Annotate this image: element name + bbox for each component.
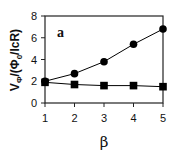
square-marker <box>71 81 79 89</box>
circle-marker <box>71 70 79 78</box>
y-tick-label: 2 <box>31 75 37 87</box>
x-tick-label: 1 <box>42 112 48 124</box>
circle-marker <box>130 40 138 48</box>
x-tick-label: 5 <box>160 112 166 124</box>
x-axis-ticks: 12345 <box>42 103 166 124</box>
series-squares <box>41 79 167 91</box>
y-axis-ticks: 02468 <box>31 10 45 109</box>
y-tick-label: 8 <box>31 10 37 22</box>
x-tick-label: 3 <box>101 112 107 124</box>
x-tick-label: 4 <box>130 112 136 124</box>
square-marker <box>159 83 167 91</box>
square-marker <box>130 82 138 90</box>
y-axis-label: VΦ/(Φ0/IcR) <box>8 29 24 91</box>
circle-marker <box>159 25 167 33</box>
square-marker <box>41 79 49 87</box>
x-axis-label: β <box>100 133 109 151</box>
circle-marker <box>100 58 108 66</box>
chart: 02468 12345 a β VΦ/(Φ0/IcR) <box>0 0 180 156</box>
square-marker <box>100 82 108 90</box>
panel-label: a <box>57 25 64 40</box>
y-tick-label: 0 <box>31 97 37 109</box>
x-tick-label: 2 <box>71 112 77 124</box>
y-tick-label: 4 <box>31 54 37 66</box>
y-tick-label: 6 <box>31 32 37 44</box>
